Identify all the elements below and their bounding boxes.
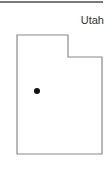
state-outline	[17, 35, 102, 154]
location-marker	[34, 88, 40, 94]
state-map	[0, 0, 110, 172]
